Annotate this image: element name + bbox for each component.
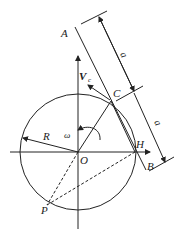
label-v: V: [79, 70, 88, 82]
radius-arrow: [23, 138, 78, 152]
diagram-canvas: A C H B O P R ω V c a a: [0, 0, 185, 237]
label-v-sub: c: [88, 76, 92, 84]
label-dim-top: a: [118, 50, 130, 59]
label-dim-bottom: a: [152, 118, 164, 127]
label-p: P: [40, 204, 48, 216]
label-r: R: [42, 130, 50, 142]
label-omega: ω: [64, 130, 70, 140]
label-a: A: [60, 27, 68, 39]
omega-arc: [78, 127, 100, 140]
dashed-op: [47, 152, 78, 205]
dashed-ph: [47, 152, 135, 205]
label-c: C: [113, 87, 121, 99]
line-oc: [78, 101, 111, 152]
chord-ch: [111, 101, 135, 152]
dim-tick-top: [81, 11, 107, 24]
label-o: O: [80, 154, 88, 166]
label-b: B: [147, 160, 154, 172]
label-h: H: [135, 138, 145, 150]
